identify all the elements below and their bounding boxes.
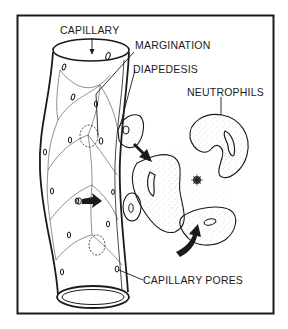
diagram-canvas: CAPILLARY MARGINATION DIAPEDESIS NEUTROP…: [0, 0, 288, 329]
margination-arrow-icon: [77, 193, 102, 208]
label-margination: MARGINATION: [135, 39, 211, 51]
label-capillary-pores: CAPILLARY PORES: [143, 274, 243, 286]
label-neutrophils: NEUTROPHILS: [187, 86, 264, 98]
capillary-pores: [43, 52, 118, 275]
label-diapedesis: DIAPEDESIS: [133, 63, 198, 75]
neutrophil-lower-right: [180, 207, 236, 245]
chemotactic-source: [170, 150, 230, 210]
label-capillary: CAPILLARY: [60, 24, 119, 36]
